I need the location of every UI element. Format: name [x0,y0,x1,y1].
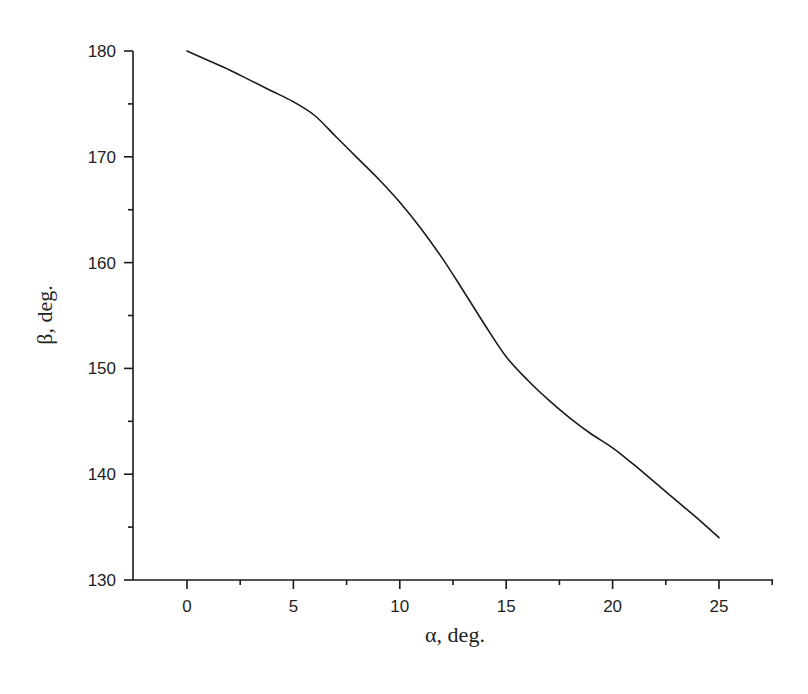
x-ticks: 0510152025 [182,580,772,616]
plot-area [187,51,719,538]
y-tick-label: 160 [88,254,116,273]
x-tick-label: 15 [497,597,516,616]
x-tick-label: 5 [289,597,298,616]
x-tick-label: 10 [390,597,409,616]
y-ticks: 130140150160170180 [88,42,133,590]
line-chart: 130140150160170180 0510152025 α, deg. β,… [0,0,808,694]
y-tick-label: 140 [88,465,116,484]
x-tick-label: 20 [603,597,622,616]
x-tick-label: 0 [182,597,191,616]
y-tick-label: 150 [88,359,116,378]
x-tick-label: 25 [710,597,729,616]
y-tick-label: 130 [88,571,116,590]
y-axis-title: β, deg. [32,285,57,344]
data-line [187,51,719,538]
y-tick-label: 170 [88,148,116,167]
y-tick-label: 180 [88,42,116,61]
axes: 130140150160170180 0510152025 [88,42,773,616]
x-axis-title: α, deg. [425,622,485,647]
